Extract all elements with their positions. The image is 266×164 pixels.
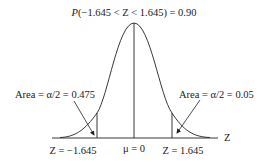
left-area-label: Area = α/2 = 0.475	[15, 89, 95, 100]
mean-label: μ = 0	[123, 143, 145, 154]
left-z-label: Z = −1.645	[49, 145, 96, 156]
right-area-arrow-icon	[177, 100, 200, 133]
left-area-arrow-icon	[74, 101, 94, 135]
axis-label-z: Z	[224, 132, 230, 143]
right-area-label: Area = α/2 = 0.05	[179, 89, 254, 100]
right-z-label: Z = 1.645	[162, 145, 203, 156]
probability-title: P(−1.645 < Z < 1.645) = 0.90	[71, 7, 197, 19]
normal-distribution-diagram: P(−1.645 < Z < 1.645) = 0.90 Z Area = α/…	[0, 0, 266, 164]
normal-curve	[60, 23, 210, 138]
